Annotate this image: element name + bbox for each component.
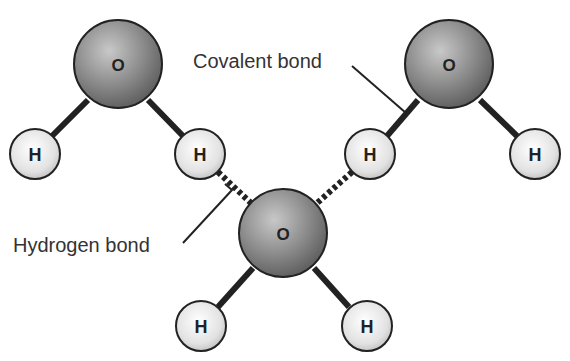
hydrogen-symbol: H: [194, 145, 207, 165]
water-molecule-top-left: O H H: [10, 20, 225, 179]
oxygen-symbol: O: [111, 56, 124, 75]
oxygen-symbol: O: [276, 225, 289, 244]
hydrogen-bond-leader-line: [183, 184, 232, 243]
covalent-bond-line: [148, 100, 183, 136]
hydrogen-symbol: H: [361, 317, 374, 337]
hydrogen-symbol: H: [195, 317, 208, 337]
oxygen-symbol: O: [442, 56, 455, 75]
covalent-bond-label: Covalent bond: [193, 50, 322, 73]
water-molecule-top-right: O H H: [345, 20, 560, 179]
hydrogen-symbol: H: [364, 145, 377, 165]
covalent-bond-line: [387, 100, 418, 136]
covalent-bond-line: [480, 100, 517, 136]
hydrogen-bond-dashed-line: [316, 172, 352, 204]
covalent-bond-line: [52, 100, 88, 136]
covalent-bond-line: [314, 268, 349, 307]
covalent-bond-leader-line: [352, 66, 406, 113]
hydrogen-symbol: H: [529, 145, 542, 165]
covalent-bond-line: [218, 268, 253, 307]
hydrogen-bond-label: Hydrogen bond: [13, 234, 150, 257]
hydrogen-symbol: H: [29, 145, 42, 165]
water-molecule-bottom-center: O H H: [176, 189, 392, 351]
